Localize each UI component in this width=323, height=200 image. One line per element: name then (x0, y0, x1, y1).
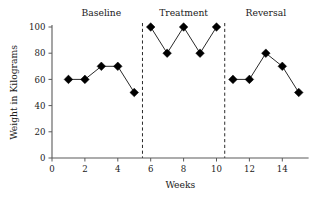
y-tick-label: 0 (40, 153, 45, 163)
phase-label-group: BaselineTreatmentReversal (82, 7, 287, 18)
data-point-marker (196, 49, 205, 58)
data-point-marker (114, 62, 123, 71)
y-tick-label: 80 (35, 48, 46, 58)
series-line-group (68, 27, 298, 93)
data-point-marker (245, 75, 254, 84)
x-tick-label: 8 (181, 164, 186, 174)
phase-label-reversal: Reversal (246, 7, 287, 18)
chart-container: BaselineTreatmentReversal 020406080100 0… (0, 0, 323, 200)
x-tick-label: 0 (49, 164, 54, 174)
y-tick-label: 100 (29, 22, 45, 32)
x-tick-label: 10 (211, 164, 222, 174)
phase-label-baseline: Baseline (82, 7, 122, 18)
phase-divider-group (142, 23, 224, 158)
data-point-marker (64, 75, 73, 84)
data-point-marker (212, 23, 221, 32)
data-point-marker (262, 49, 271, 58)
data-point-marker (97, 62, 106, 71)
data-point-marker (146, 23, 155, 32)
y-tick-label: 40 (35, 101, 46, 111)
data-point-marker (163, 49, 172, 58)
series-marker-group (64, 23, 303, 97)
series-line-reversal (233, 53, 299, 92)
data-point-marker (294, 88, 303, 97)
y-axis-title: Weight in Kilograms (8, 45, 19, 140)
data-point-marker (81, 75, 90, 84)
weight-line-chart: BaselineTreatmentReversal 020406080100 0… (0, 0, 323, 200)
data-point-marker (229, 75, 238, 84)
x-tick-label: 4 (115, 164, 121, 174)
data-point-marker (130, 88, 139, 97)
x-tick-label: 6 (148, 164, 153, 174)
x-tick-group: 02468101214 (49, 158, 288, 174)
y-tick-label: 20 (35, 127, 46, 137)
data-point-marker (278, 62, 287, 71)
x-axis-title: Weeks (165, 179, 195, 190)
x-tick-label: 2 (82, 164, 87, 174)
phase-label-treatment: Treatment (159, 7, 208, 18)
data-point-marker (179, 23, 188, 32)
x-tick-label: 12 (244, 164, 255, 174)
x-tick-label: 14 (277, 164, 288, 174)
axis-group (52, 25, 309, 158)
y-tick-group: 020406080100 (29, 22, 52, 163)
y-tick-label: 60 (35, 75, 46, 85)
